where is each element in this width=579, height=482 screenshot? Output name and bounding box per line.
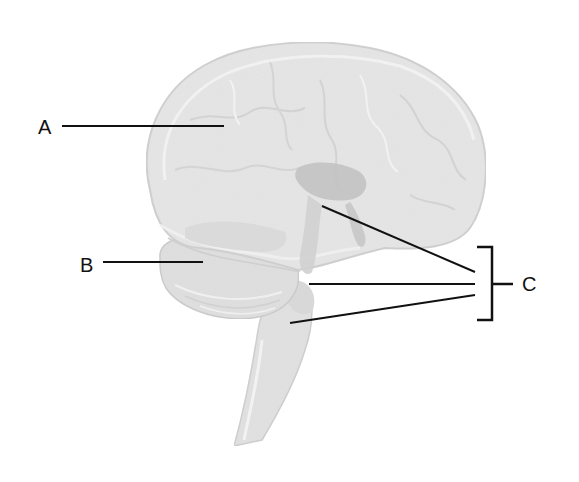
label-c: C (522, 274, 536, 294)
bracket-c (477, 247, 513, 320)
leader-line-c3 (290, 295, 475, 323)
brain-diagram (0, 0, 579, 482)
label-a: A (38, 117, 51, 137)
label-b: B (80, 255, 93, 275)
